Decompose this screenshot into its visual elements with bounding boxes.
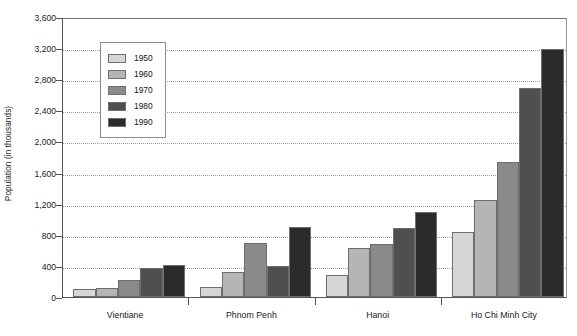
legend-swatch [108, 70, 126, 79]
legend-item: 1960 [101, 66, 165, 82]
legend-item-label: 1960 [134, 69, 153, 79]
y-axis-tick-label: 2,400 [10, 106, 56, 116]
bar [415, 212, 437, 297]
y-axis-tick-label: 2,800 [10, 75, 56, 85]
legend-swatch [108, 102, 126, 111]
y-axis-tick-label: 3,600 [10, 13, 56, 23]
legend-item: 1980 [101, 98, 165, 114]
y-axis-tick-label: 1,200 [10, 200, 56, 210]
y-axis-tick-label: 2,000 [10, 137, 56, 147]
bar [370, 244, 392, 297]
bar [140, 268, 162, 297]
bar [200, 287, 222, 298]
bar [519, 88, 541, 297]
bar [452, 232, 474, 297]
x-axis-tick-label: Phnom Penh [226, 310, 277, 320]
legend-item: 1950 [101, 50, 165, 66]
x-axis-tick-label: Vientiane [107, 310, 144, 320]
bar [267, 266, 289, 297]
bar [541, 49, 563, 298]
legend-item: 1970 [101, 82, 165, 98]
y-axis-title-label: Population (in thousands) [5, 105, 14, 200]
legend-swatch [108, 86, 126, 95]
y-axis-tick-label: 800 [10, 231, 56, 241]
bar [73, 289, 95, 297]
bar [474, 200, 496, 297]
bar [289, 227, 311, 297]
y-axis-tick-label: 3,200 [10, 44, 56, 54]
bar [118, 280, 140, 297]
bar [326, 275, 348, 297]
legend: 19501960197019801990 [100, 42, 166, 138]
x-axis-group-separator [441, 298, 442, 305]
bar [244, 243, 266, 297]
y-axis-tick-label: 0 [10, 293, 56, 303]
y-axis-tick-label: 1,600 [10, 169, 56, 179]
legend-item-label: 1980 [134, 101, 153, 111]
legend-item-label: 1950 [134, 53, 153, 63]
bar [393, 228, 415, 297]
legend-item-label: 1990 [134, 117, 153, 127]
legend-item: 1990 [101, 114, 165, 130]
x-axis-group-separator [188, 298, 189, 305]
legend-item-label: 1970 [134, 85, 153, 95]
bar-chart: Population (in thousands) 04008001,2001,… [0, 0, 577, 336]
x-axis-tick-label: Ho Chi Minh City [471, 310, 537, 320]
bar [348, 248, 370, 297]
bar [163, 265, 185, 297]
legend-swatch [108, 118, 126, 127]
bar [96, 288, 118, 297]
x-axis-tick-label: Hanoi [366, 310, 389, 320]
bar [222, 272, 244, 297]
y-axis-tick-mark [56, 298, 62, 299]
x-axis-group-separator [315, 298, 316, 305]
bar [497, 162, 519, 297]
y-axis-tick-label: 400 [10, 262, 56, 272]
legend-swatch [108, 54, 126, 63]
